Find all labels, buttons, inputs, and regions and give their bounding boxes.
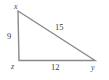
- side-length-label-bottom-leg: 12: [51, 63, 60, 72]
- vertex-label-y: y: [91, 64, 95, 72]
- vertex-label-x: x: [14, 3, 18, 11]
- triangle-figure: x z y 9 12 15: [0, 0, 109, 80]
- side-length-label-hypotenuse: 15: [55, 23, 64, 32]
- vertex-label-z: z: [11, 63, 14, 71]
- triangle-path: [18, 11, 95, 61]
- side-length-label-left-leg: 9: [7, 32, 11, 41]
